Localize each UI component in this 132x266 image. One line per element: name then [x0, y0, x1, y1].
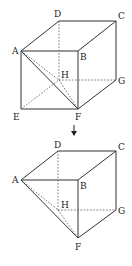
top-cube: D C A B H G E F	[11, 9, 125, 122]
label-top-G: G	[118, 76, 125, 86]
label-top-A: A	[11, 46, 19, 56]
label-top-C: C	[118, 11, 125, 21]
bottom-solid: D C A B H G F	[11, 140, 125, 252]
label-top-B: B	[80, 52, 87, 62]
label-bottom-F: F	[75, 242, 81, 252]
label-top-D: D	[54, 9, 61, 19]
label-bottom-C: C	[118, 142, 125, 152]
label-bottom-G: G	[118, 206, 125, 216]
label-top-H: H	[61, 70, 69, 80]
label-top-E: E	[13, 112, 20, 122]
label-bottom-A: A	[11, 175, 19, 185]
label-bottom-D: D	[54, 140, 61, 150]
cube-diagram: D C A B H G E F D C A B H	[0, 0, 132, 266]
label-top-F: F	[75, 112, 81, 122]
label-bottom-H: H	[61, 200, 69, 210]
down-arrow-icon	[71, 125, 77, 136]
label-bottom-B: B	[80, 181, 87, 191]
